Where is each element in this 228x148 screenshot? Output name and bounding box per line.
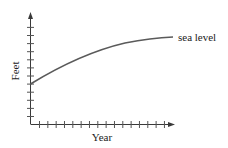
x-axis-label: Year — [92, 131, 113, 143]
y-axis-label: Feet — [9, 62, 21, 81]
curve-label: sea level — [178, 31, 216, 43]
sea-level-chart: sea level Year Feet — [0, 0, 228, 148]
x-axis-arrow-icon — [168, 122, 175, 127]
sea-level-curve — [31, 37, 174, 84]
y-axis-arrow-icon — [28, 12, 33, 19]
